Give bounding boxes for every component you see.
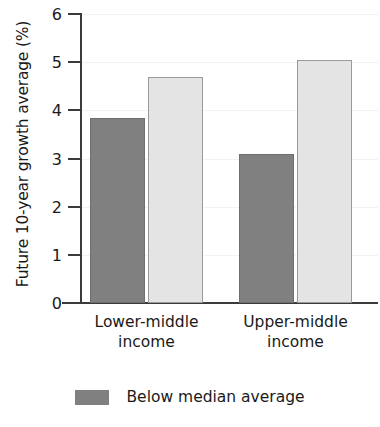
y-tick-label: 6: [38, 5, 62, 24]
category-label-line: Lower-middle: [72, 312, 222, 332]
y-tick-label: 1: [38, 245, 62, 264]
chart-legend: Below median average: [0, 388, 380, 406]
y-tick-label: 0: [38, 294, 62, 313]
category-label-line: income: [221, 332, 371, 352]
category-label-line: income: [72, 332, 222, 352]
legend-swatch: [75, 390, 109, 405]
legend-label: Below median average: [126, 388, 304, 406]
y-tick-label: 3: [38, 149, 62, 168]
y-axis-title: Future 10-year growth average (%): [14, 4, 32, 304]
y-tick-label: 5: [38, 53, 62, 72]
plot-area: [80, 14, 378, 303]
bar: [148, 77, 203, 303]
bar: [297, 60, 352, 303]
bar: [239, 154, 294, 303]
x-axis-category-label: Lower-middleincome: [72, 312, 222, 352]
legend-entry: Below median average: [75, 388, 304, 406]
bar-chart: Future 10-year growth average (%) 012345…: [0, 0, 380, 427]
category-label-line: Upper-middle: [221, 312, 371, 332]
y-tick-label: 4: [38, 101, 62, 120]
y-tick-label: 2: [38, 197, 62, 216]
x-axis-category-label: Upper-middleincome: [221, 312, 371, 352]
bar: [90, 118, 145, 303]
